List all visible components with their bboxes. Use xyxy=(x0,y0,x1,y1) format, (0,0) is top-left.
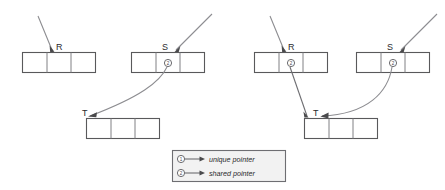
legend-label-unique-pointer: unique pointer xyxy=(209,155,255,164)
label-left-S: S xyxy=(162,42,168,52)
svg-text:2: 2 xyxy=(167,61,170,66)
arrow-into-right-R xyxy=(270,16,286,52)
arrow-right-S-to-T xyxy=(320,67,392,118)
shared-pointer-icon: 2 xyxy=(389,59,396,66)
svg-text:2: 2 xyxy=(290,61,293,66)
arrow-into-left-R xyxy=(38,16,54,52)
svg-text:1: 1 xyxy=(180,157,183,162)
arrow-left-S-to-T xyxy=(88,67,167,117)
box-right-T xyxy=(305,119,378,139)
arrow-right-R-to-T xyxy=(290,67,309,118)
svg-text:2: 2 xyxy=(392,61,395,66)
arrow-into-right-S xyxy=(400,14,437,53)
label-right-T: T xyxy=(313,108,319,118)
box-left-T xyxy=(87,119,160,139)
svg-text:2: 2 xyxy=(180,171,183,176)
label-right-S: S xyxy=(387,42,393,52)
diagram-canvas: R S 2 xyxy=(0,0,445,190)
shared-pointer-icon: 2 xyxy=(287,59,294,66)
box-left-R xyxy=(23,53,96,73)
legend-label-shared-pointer: shared pointer xyxy=(209,169,256,178)
label-left-T: T xyxy=(82,108,88,118)
panel-left: R S 2 xyxy=(23,14,213,139)
arrow-into-left-S xyxy=(175,14,212,53)
legend: 1 unique pointer 2 shared pointer xyxy=(173,151,286,182)
shared-pointer-icon: 2 xyxy=(164,59,171,66)
label-right-R: R xyxy=(288,42,295,52)
label-left-R: R xyxy=(56,42,63,52)
panel-right: R 2 S 2 xyxy=(255,14,438,139)
